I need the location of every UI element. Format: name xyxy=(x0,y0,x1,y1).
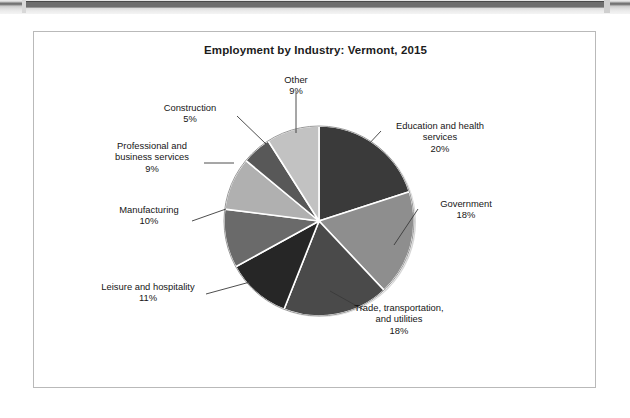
chart-container: Employment by Industry: Vermont, 2015 xyxy=(33,31,596,388)
scan-edge-right xyxy=(604,0,610,13)
callout-leisure-name: Leisure and hospitality xyxy=(86,281,210,292)
leader-line-manufacturing xyxy=(192,209,226,221)
callout-trade-name-line2: and utilities xyxy=(334,313,464,324)
pie-chart-plot-area: Other 9% Construction 5% Professional an… xyxy=(34,32,597,389)
callout-trade-pct: 18% xyxy=(334,325,464,336)
callout-trade-name-line1: Trade, transportation, xyxy=(334,302,464,313)
callout-leisure-pct: 11% xyxy=(86,292,210,303)
callout-education-name-line1: Education and health xyxy=(382,120,498,131)
callout-other: Other 9% xyxy=(262,74,330,97)
callout-other-pct: 9% xyxy=(262,85,330,96)
callout-construction-pct: 5% xyxy=(144,113,236,124)
callout-construction: Construction 5% xyxy=(144,102,236,125)
callout-government: Government 18% xyxy=(420,198,512,221)
callout-other-name: Other xyxy=(262,74,330,85)
callout-trade-transportation-and-utilities: Trade, transportation, and utilities 18% xyxy=(334,302,464,336)
pie-slices xyxy=(224,126,414,316)
callout-manufacturing-name: Manufacturing xyxy=(102,204,196,215)
callout-education-name-line2: services xyxy=(382,131,498,142)
callout-professional-name-line1: Professional and xyxy=(98,140,206,151)
callout-construction-name: Construction xyxy=(144,102,236,113)
callout-education-and-health-services: Education and health services 20% xyxy=(382,120,498,154)
callout-manufacturing: Manufacturing 10% xyxy=(102,204,196,227)
callout-professional-and-business-services: Professional and business services 9% xyxy=(98,140,206,174)
callout-government-name: Government xyxy=(420,198,512,209)
callout-leisure-and-hospitality: Leisure and hospitality 11% xyxy=(86,281,210,304)
callout-professional-pct: 9% xyxy=(98,163,206,174)
callout-government-pct: 18% xyxy=(420,209,512,220)
callout-professional-name-line2: business services xyxy=(98,151,206,162)
scanned-page-edge-artifact xyxy=(0,0,630,14)
screenshot-canvas: Employment by Industry: Vermont, 2015 xyxy=(0,0,630,418)
callout-manufacturing-pct: 10% xyxy=(102,215,196,226)
leader-line-construction xyxy=(237,116,266,144)
scan-edge-bar xyxy=(26,1,604,7)
callout-education-pct: 20% xyxy=(382,143,498,154)
leader-line-leisure xyxy=(206,282,250,294)
